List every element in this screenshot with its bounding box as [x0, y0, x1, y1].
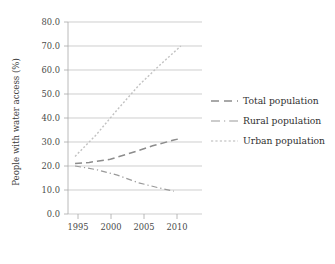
series-line-urban-population: [75, 46, 181, 156]
x-tick-labels: 1995 2000 2005 2010: [67, 222, 187, 232]
y-tick-label-0: 0.0: [47, 209, 60, 219]
x-tick-label-2005: 2005: [133, 222, 154, 232]
y-tick-label-10: 10.0: [42, 185, 60, 195]
y-tick-label-80: 80.0: [42, 17, 60, 27]
legend-item-total-population[interactable]: Total population: [211, 95, 319, 106]
y-tick-marks: [64, 22, 68, 214]
series-group: [75, 46, 181, 191]
x-tick-marks: [78, 214, 177, 219]
y-tick-label-20: 20.0: [42, 161, 60, 171]
legend-label-total-population: Total population: [243, 95, 319, 106]
line-chart: People with water access (%): [0, 0, 335, 264]
chart-figure: People with water access (%): [0, 0, 335, 264]
y-axis-title: People with water access (%): [11, 58, 21, 186]
legend-label-rural-population: Rural population: [243, 115, 321, 126]
y-tick-label-40: 40.0: [42, 113, 60, 123]
legend-item-rural-population[interactable]: Rural population: [211, 115, 321, 126]
y-tick-label-50: 50.0: [42, 89, 60, 99]
chart-legend: Total population Rural population Urban …: [211, 95, 325, 146]
x-tick-label-2010: 2010: [166, 222, 187, 232]
y-tick-label-70: 70.0: [42, 41, 60, 51]
gridlines: [68, 22, 202, 214]
legend-label-urban-population: Urban population: [243, 135, 325, 146]
x-tick-label-2000: 2000: [100, 222, 121, 232]
legend-item-urban-population[interactable]: Urban population: [211, 135, 325, 146]
y-tick-label-60: 60.0: [42, 65, 60, 75]
x-tick-label-1995: 1995: [67, 222, 88, 232]
series-line-rural-population: [75, 166, 174, 191]
y-tick-labels: 80.0 70.0 60.0 50.0 40.0 30.0 20.0 10.0 …: [42, 17, 60, 219]
y-tick-label-30: 30.0: [42, 137, 60, 147]
